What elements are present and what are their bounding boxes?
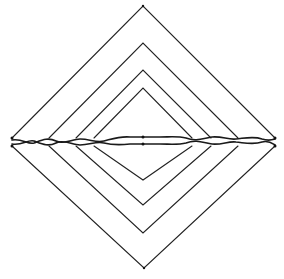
center-upper-dot xyxy=(142,136,145,139)
outer-diamond-top xyxy=(12,6,275,138)
third-diamond-top xyxy=(76,70,211,138)
third-diamond-bottom xyxy=(76,146,211,205)
second-diamond-bottom xyxy=(49,146,238,233)
diagram-canvas xyxy=(0,0,284,279)
outer-diamond-bottom xyxy=(12,146,275,268)
inner-diamond-top xyxy=(94,88,192,138)
left-upper-vertex xyxy=(11,137,14,140)
center-lower-dot xyxy=(142,143,145,146)
right-upper-vertex xyxy=(274,137,277,140)
nested-diamonds-figure xyxy=(0,0,284,279)
right-lower-vertex xyxy=(274,145,277,148)
second-diamond-top xyxy=(49,43,238,138)
left-lower-vertex xyxy=(11,145,14,148)
top-vertex xyxy=(142,5,144,7)
bottom-vertex xyxy=(143,267,145,269)
